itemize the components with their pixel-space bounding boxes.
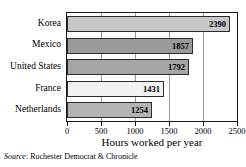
bar-value-korea: 2390: [67, 17, 226, 31]
bar-chart-figure: Korea Mexico United States France Nether…: [0, 0, 246, 167]
category-label-netherlands: Netherlands: [0, 104, 61, 114]
bar-row: 1254: [67, 99, 237, 121]
bar-row: 1857: [67, 35, 237, 57]
category-label-united-states: United States: [0, 61, 61, 71]
bars-layer: 2390 1857 1792 1431 1254: [67, 13, 237, 121]
x-tick-label-2500: 2500: [217, 126, 246, 136]
source-text: Rochester Democrat & Chronicle: [30, 152, 137, 161]
bar-value-united-states: 1792: [67, 60, 185, 74]
bar-value-netherlands: 1254: [67, 103, 148, 117]
bar-row: 1431: [67, 78, 237, 100]
bar-value-mexico: 1857: [67, 39, 189, 53]
x-axis-title: Hours worked per year: [66, 136, 238, 149]
category-axis: Korea Mexico United States France Nether…: [0, 12, 64, 122]
source-note: Source: Rochester Democrat & Chronicle: [4, 152, 137, 162]
bar-row: 1792: [67, 56, 237, 78]
category-label-korea: Korea: [0, 18, 61, 28]
bar-row: 2390: [67, 13, 237, 35]
source-label: Source: [4, 152, 26, 161]
bar-value-france: 1431: [67, 82, 160, 96]
category-label-france: France: [0, 83, 61, 93]
category-label-mexico: Mexico: [0, 39, 61, 49]
plot-area: 2390 1857 1792 1431 1254: [66, 12, 238, 122]
